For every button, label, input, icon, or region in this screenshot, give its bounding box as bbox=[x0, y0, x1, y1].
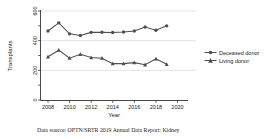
legend-label-living-donor: Living donor bbox=[219, 58, 249, 64]
svg-text:200: 200 bbox=[32, 66, 38, 75]
circle-marker-icon bbox=[204, 49, 217, 56]
svg-text:2016: 2016 bbox=[128, 104, 140, 110]
svg-text:2020: 2020 bbox=[171, 104, 183, 110]
svg-text:2018: 2018 bbox=[150, 104, 162, 110]
svg-text:2014: 2014 bbox=[107, 104, 119, 110]
triangle-marker-icon bbox=[204, 57, 217, 64]
svg-text:0: 0 bbox=[32, 98, 38, 101]
legend-item-deceased-donor: Deceased donor bbox=[204, 49, 259, 56]
x-axis-title: Year bbox=[108, 112, 120, 118]
legend-item-living-donor: Living donor bbox=[204, 57, 259, 64]
y-axis-title: Transplants bbox=[7, 40, 13, 71]
svg-text:2012: 2012 bbox=[85, 104, 97, 110]
svg-text:400: 400 bbox=[32, 36, 38, 45]
data-source-caption: Data source: OPTN/SRTR 2019 Annual Data … bbox=[37, 127, 179, 133]
legend: Deceased donor Living donor bbox=[204, 49, 259, 64]
svg-text:600: 600 bbox=[32, 6, 38, 15]
svg-text:2008: 2008 bbox=[42, 104, 54, 110]
svg-text:2010: 2010 bbox=[63, 104, 75, 110]
chart-figure: 02004006002008201020122014201620182020 T… bbox=[0, 0, 277, 139]
legend-label-deceased-donor: Deceased donor bbox=[219, 50, 259, 56]
